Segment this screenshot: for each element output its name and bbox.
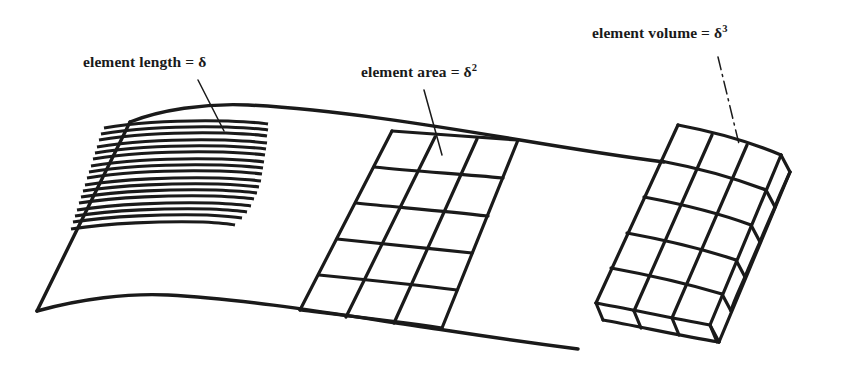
block-side-row-line	[745, 242, 760, 277]
block-side-depth-edge	[722, 294, 731, 311]
block-top-row-line	[627, 233, 736, 260]
label-element-volume-symbol: δ	[714, 24, 722, 41]
block-top-col-line	[596, 125, 678, 303]
grid-row-line	[374, 167, 503, 178]
label-element-length-symbol: δ	[198, 53, 206, 70]
block-side-depth-edge	[751, 225, 760, 242]
area-element-grid	[300, 131, 518, 328]
block-side-row-line	[731, 277, 745, 311]
grid-row-line	[337, 239, 472, 253]
label-element-volume: element volume = δ3	[592, 24, 728, 42]
label-element-area: element area = δ2	[361, 63, 477, 81]
label-element-area-text: element area =	[361, 63, 464, 80]
label-element-volume-exponent: 3	[722, 23, 727, 34]
leader-line-area	[424, 90, 442, 155]
block-top-row-line	[644, 197, 751, 225]
block-top-col-line	[710, 155, 781, 325]
leader-line-volume	[718, 57, 739, 144]
label-element-area-symbol: δ	[464, 63, 472, 80]
block-side-depth-edge	[781, 155, 790, 172]
grid-col-line	[394, 139, 477, 323]
label-element-length-text: element length =	[83, 53, 198, 70]
block-top-row-line	[661, 161, 766, 190]
block-side-row-line	[775, 172, 790, 207]
block-side-depth-edge	[766, 190, 775, 207]
block-side-depth-edge	[736, 260, 745, 277]
grid-row-line	[300, 310, 442, 328]
grid-row-line	[356, 203, 488, 216]
line-element-patch	[71, 121, 268, 229]
block-top-col-line	[634, 135, 712, 311]
grid-col-line	[346, 137, 435, 317]
label-element-length: element length = δ	[83, 53, 206, 71]
block-side-row-line	[760, 207, 775, 242]
grid-col-line	[442, 140, 518, 328]
grid-col-line	[300, 131, 392, 310]
label-element-volume-text: element volume =	[592, 24, 714, 41]
label-element-area-exponent: 2	[472, 62, 477, 73]
block-top-row-line	[678, 125, 781, 155]
shell-bottom-edge	[37, 295, 578, 349]
block-top-row-line	[611, 268, 722, 294]
grid-row-line	[319, 275, 457, 290]
